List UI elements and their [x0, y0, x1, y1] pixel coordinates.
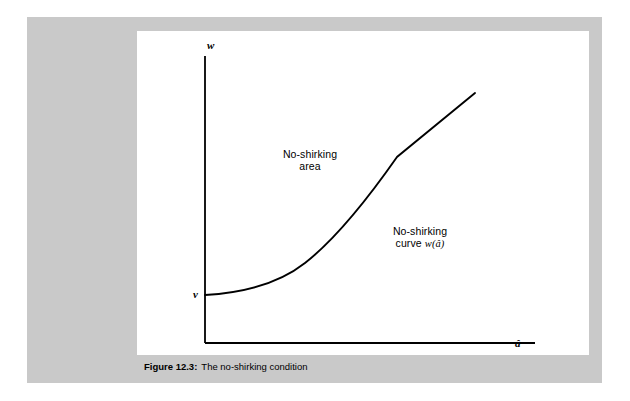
x-axis-label: â [515, 337, 521, 350]
curve-label-function: w [425, 238, 432, 249]
y-axis-label: w [207, 39, 214, 52]
curve-label-argument: (â) [432, 238, 445, 249]
no-shirking-area-line2: area [265, 160, 355, 172]
figure-panel: w v â No-shirking area No-shirking curve… [27, 17, 602, 383]
curve-label-prefix: curve [396, 237, 425, 249]
plot-graphic [137, 31, 589, 355]
no-shirking-curve-line1: No-shirking [370, 225, 470, 237]
figure-caption-number: Figure 12.3: [144, 361, 197, 372]
no-shirking-curve-label: No-shirking curve w(â) [370, 225, 470, 251]
y-intercept-label: v [193, 288, 198, 301]
no-shirking-area-label: No-shirking area [265, 148, 355, 173]
plot-canvas: w v â No-shirking area No-shirking curve… [137, 31, 589, 355]
figure-caption: Figure 12.3:The no-shirking condition [144, 361, 307, 372]
no-shirking-area-line1: No-shirking [265, 148, 355, 160]
no-shirking-curve [205, 93, 475, 295]
figure-caption-text: The no-shirking condition [201, 361, 307, 372]
no-shirking-curve-line2: curve w(â) [370, 237, 470, 250]
